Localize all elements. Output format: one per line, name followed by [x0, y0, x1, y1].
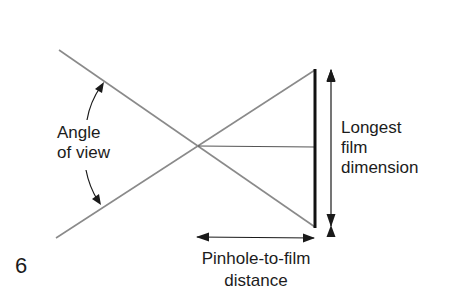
- film-dimension-line-1: Longest: [341, 118, 419, 138]
- angle-arrow-upper-head: [95, 82, 104, 93]
- longest-film-dimension-label: Longest film dimension: [341, 118, 419, 178]
- distance-line-2: distance: [188, 270, 324, 292]
- distance-arrow: [197, 237, 314, 238]
- angle-of-view-line-1: Angle: [57, 123, 110, 143]
- distance-line-1: Pinhole-to-film: [188, 248, 324, 270]
- film-dimension-line-2: film: [341, 138, 419, 158]
- angle-of-view-line-2: of view: [57, 143, 110, 163]
- angle-arrow-lower-head: [92, 194, 101, 205]
- film-arrow-bottom-head: [327, 214, 336, 227]
- pinhole-angle-of-view-diagram: Angle of view Longest film dimension Pin…: [0, 0, 469, 306]
- film-arrow-top-head: [327, 69, 336, 82]
- central-axis: [198, 146, 315, 147]
- film-dimension-line-3: dimension: [341, 158, 419, 178]
- figure-number: 6: [15, 253, 27, 279]
- angle-of-view-label: Angle of view: [57, 123, 110, 163]
- pinhole-to-film-distance-label: Pinhole-to-film distance: [188, 248, 324, 292]
- distance-arrow-left-head: [196, 233, 209, 242]
